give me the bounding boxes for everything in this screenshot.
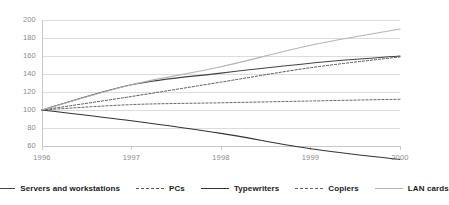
series-line-lan-cards: [42, 29, 400, 110]
x-tick-label: 1997: [112, 153, 152, 162]
y-tick-label: 60: [10, 141, 36, 150]
legend-line-icon: [136, 185, 164, 192]
legend-label: LAN cards: [408, 184, 449, 193]
y-tick-label: 120: [10, 87, 36, 96]
legend-item-typewriters[interactable]: Typewriters: [201, 184, 279, 193]
legend-item-lan-cards[interactable]: LAN cards: [375, 184, 449, 193]
legend-line-icon: [375, 185, 403, 192]
x-tick-label: 2000: [380, 153, 420, 162]
y-tick-label: 180: [10, 33, 36, 42]
axis-lines: [42, 20, 400, 150]
legend-label: Typewriters: [234, 184, 279, 193]
x-tick-label: 1998: [201, 153, 241, 162]
legend-line-icon: [295, 185, 323, 192]
legend-label: Copiers: [328, 184, 359, 193]
y-tick-label: 100: [10, 105, 36, 114]
y-tick-label: 200: [10, 15, 36, 24]
legend-line-icon: [0, 185, 15, 192]
legend-label: PCs: [169, 184, 185, 193]
legend-line-icon: [201, 185, 229, 192]
y-tick-label: 80: [10, 123, 36, 132]
series-line-pcs: [42, 57, 400, 110]
y-tick-label: 160: [10, 51, 36, 60]
series-line-copiers: [42, 99, 400, 110]
chart-legend: Servers and workstationsPCsTypewritersCo…: [0, 178, 436, 198]
legend-item-servers-and-workstations[interactable]: Servers and workstations: [0, 184, 120, 193]
legend-label: Servers and workstations: [20, 184, 120, 193]
legend-item-copiers[interactable]: Copiers: [295, 184, 359, 193]
x-tick-label: 1999: [291, 153, 331, 162]
x-tick-label: 1996: [22, 153, 62, 162]
y-tick-label: 140: [10, 69, 36, 78]
legend-item-pcs[interactable]: PCs: [136, 184, 185, 193]
series-lines: [42, 29, 400, 160]
